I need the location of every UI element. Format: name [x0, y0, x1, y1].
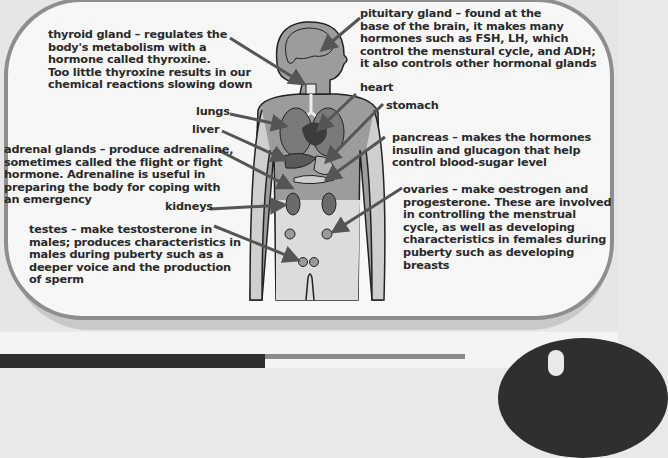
lungs-label: lungs	[196, 106, 230, 119]
pituitary-label: pituitary gland – found at the base of t…	[360, 8, 596, 71]
left-ovary	[285, 229, 295, 239]
thyroid-gland	[306, 84, 316, 94]
ovaries-label: ovaries – make oestrogen and progesteron…	[403, 184, 611, 272]
lower-body	[276, 200, 360, 300]
adrenal-label: adrenal glands – produce adrenaline, som…	[4, 144, 233, 207]
pancreas-label: pancreas – makes the hormones insulin an…	[392, 132, 591, 170]
testes-label: testes – make testosterone in males; pro…	[29, 224, 241, 287]
right-ovary	[322, 229, 332, 239]
stomach-label: stomach	[386, 100, 439, 113]
kidneys-label: kidneys	[165, 201, 213, 214]
liver-label: liver	[192, 124, 219, 137]
right-testis	[310, 258, 319, 267]
left-testis	[299, 258, 308, 267]
right-kidney	[322, 193, 336, 215]
heart-label: heart	[360, 82, 393, 95]
left-kidney	[286, 193, 300, 215]
thyroid-label: thyroid gland – regulates the body's met…	[48, 29, 252, 92]
